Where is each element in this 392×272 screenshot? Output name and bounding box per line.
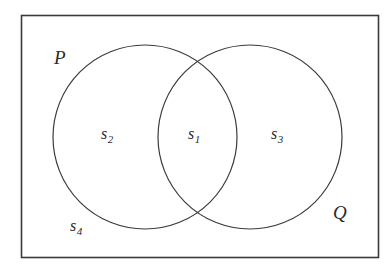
region-label-s2-base: s: [101, 125, 107, 142]
set-label-p: P: [54, 48, 66, 67]
region-label-s2: s2: [101, 126, 113, 142]
set-circle-q: [158, 45, 342, 229]
region-label-s4: s4: [70, 218, 82, 234]
region-label-s4-base: s: [70, 217, 76, 234]
region-label-s1-subscript: 1: [195, 133, 201, 145]
region-label-s2-subscript: 2: [108, 133, 114, 145]
set-circle-p: [53, 45, 237, 229]
region-label-s4-subscript: 4: [77, 225, 83, 237]
region-label-s3-base: s: [271, 125, 277, 142]
region-label-s1: s1: [188, 126, 200, 142]
set-label-q: Q: [333, 203, 347, 222]
region-label-s3-subscript: 3: [278, 133, 284, 145]
venn-diagram-figure: P Q s2 s1 s3 s4: [0, 0, 392, 272]
region-label-s3: s3: [271, 126, 283, 142]
region-label-s1-base: s: [188, 125, 194, 142]
